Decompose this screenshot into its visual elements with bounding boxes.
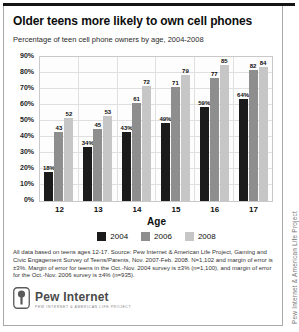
pew-internet-logo: Pew Internet Pew Internet & American Lif…: [13, 287, 273, 313]
legend-label: 2004: [110, 232, 128, 241]
bar-value-label: 59%: [198, 100, 210, 106]
y-tick-label: 20%: [20, 164, 34, 171]
bar-group-age-15: 49%7179: [156, 57, 195, 201]
logo-text: Pew Internet Pew Internet & American Lif…: [35, 291, 131, 309]
bar: [181, 75, 190, 201]
bar: [44, 172, 53, 201]
legend-item-2006: 2006: [141, 232, 172, 241]
bar-value-label: 72: [143, 79, 150, 85]
chart-card: Older teens more likely to own cell phon…: [3, 6, 283, 326]
bar-2006-age-14: 61: [132, 57, 141, 201]
bar-2004-age-13: 34%: [83, 57, 92, 201]
bar-value-label: 43%: [121, 125, 133, 131]
bar: [103, 116, 112, 201]
y-tick-label: 80%: [20, 68, 34, 75]
y-tick-label: 0%: [24, 196, 34, 203]
bar-2008-age-16: 85: [220, 57, 229, 201]
y-tick-label: 30%: [20, 148, 34, 155]
x-tick-label: 14: [118, 205, 157, 214]
bar: [239, 99, 248, 201]
legend-swatch: [141, 232, 150, 241]
legend-label: 2006: [154, 232, 172, 241]
bar-2004-age-15: 49%: [161, 57, 170, 201]
bar-value-label: 53: [104, 109, 111, 115]
bar: [54, 132, 63, 201]
x-tick-label: 13: [79, 205, 118, 214]
chart-subtitle: Percentage of teen cell phone owners by …: [13, 35, 273, 44]
bar-2008-age-13: 53: [103, 57, 112, 201]
bar: [259, 67, 268, 201]
bar-2006-age-12: 43: [54, 57, 63, 201]
legend-label: 2008: [198, 232, 216, 241]
y-tick-label: 50%: [20, 116, 34, 123]
x-axis-title: Age: [40, 216, 273, 227]
bar: [132, 103, 141, 201]
logo-tagline: Pew Internet & American Life Project: [35, 305, 131, 309]
bar-2006-age-13: 45: [93, 57, 102, 201]
side-vertical-credit: Pew Internet & American Life Project: [291, 211, 298, 324]
bar: [64, 118, 73, 201]
bar-2004-age-12: 18%: [44, 57, 53, 201]
chart-title: Older teens more likely to own cell phon…: [13, 14, 273, 28]
bar-2008-age-14: 72: [142, 57, 151, 201]
bar-chart: 0%10%20%30%40%50%60%70%80%90% 18%435234%…: [13, 56, 273, 202]
bar-value-label: 82: [250, 63, 257, 69]
x-tick-label: 15: [156, 205, 195, 214]
bar-value-label: 84: [260, 60, 267, 66]
bar: [171, 87, 180, 201]
x-tick-label: 12: [40, 205, 79, 214]
x-tick-label: 16: [195, 205, 234, 214]
bar-value-label: 34%: [82, 140, 94, 146]
bar-value-label: 64%: [237, 92, 249, 98]
bar-2008-age-12: 52: [64, 57, 73, 201]
bar: [200, 107, 209, 201]
bar-2008-age-15: 79: [181, 57, 190, 201]
bar: [220, 65, 229, 201]
footnote: All data based on teens ages 12-17. Sour…: [13, 249, 273, 280]
y-tick-label: 60%: [20, 100, 34, 107]
legend-item-2008: 2008: [185, 232, 216, 241]
legend-item-2004: 2004: [97, 232, 128, 241]
plot-area: 18%435234%455343%617249%717959%778564%82…: [39, 56, 273, 202]
bar-value-label: 79: [182, 68, 189, 74]
bar-2006-age-17: 82: [249, 57, 258, 201]
bar: [249, 70, 258, 201]
y-tick-label: 40%: [20, 132, 34, 139]
x-labels: 121314151617: [40, 202, 273, 214]
y-axis: 0%10%20%30%40%50%60%70%80%90%: [13, 56, 39, 200]
bar: [210, 78, 219, 201]
y-tick-label: 70%: [20, 84, 34, 91]
bar-value-label: 71: [172, 80, 179, 86]
bar-value-label: 49%: [159, 116, 171, 122]
bar-2004-age-14: 43%: [122, 57, 131, 201]
bar-value-label: 85: [221, 58, 228, 64]
bar: [93, 129, 102, 201]
bar-2008-age-17: 84: [259, 57, 268, 201]
bar-value-label: 77: [211, 71, 218, 77]
bar-value-label: 18%: [43, 165, 55, 171]
bar-2004-age-17: 64%: [239, 57, 248, 201]
bar: [142, 86, 151, 201]
bar-group-age-16: 59%7785: [195, 57, 234, 201]
bar-value-label: 52: [66, 111, 73, 117]
bar-group-age-17: 64%8284: [234, 57, 272, 201]
legend-swatch: [185, 232, 194, 241]
legend: 200420062008: [40, 232, 273, 241]
legend-swatch: [97, 232, 106, 241]
bar-value-label: 45: [94, 122, 101, 128]
bar-value-label: 43: [56, 125, 63, 131]
bar-2006-age-16: 77: [210, 57, 219, 201]
bar-group-age-14: 43%6172: [118, 57, 157, 201]
bar: [83, 147, 92, 201]
logo-wordmark: Pew Internet: [35, 291, 131, 303]
x-tick-label: 17: [234, 205, 273, 214]
bar: [122, 132, 131, 201]
bar-group-age-12: 18%4352: [40, 57, 79, 201]
bar-2006-age-15: 71: [171, 57, 180, 201]
bar-2004-age-16: 59%: [200, 57, 209, 201]
pushpin-logo-icon: [13, 287, 30, 313]
bar-group-age-13: 34%4553: [79, 57, 118, 201]
bar-value-label: 61: [133, 96, 140, 102]
y-tick-label: 10%: [20, 180, 34, 187]
y-tick-label: 90%: [20, 52, 34, 59]
